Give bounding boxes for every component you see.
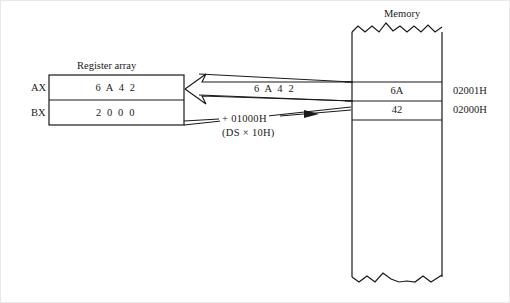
memory-cell-address-high: 02001H — [453, 85, 487, 96]
diagram-vector-layer — [1, 1, 510, 303]
register-value-bx: 2 0 0 0 — [51, 108, 181, 119]
register-value-ax: 6 A 4 2 — [51, 83, 181, 94]
memory-cell-address-low: 02000H — [453, 104, 487, 115]
memory-column — [352, 23, 442, 282]
register-label-ax: AX — [31, 83, 46, 94]
memory-title: Memory — [384, 9, 420, 20]
offset-derivation-label: (DS × 10H) — [222, 128, 275, 139]
offset-addend-label: + 01000H — [220, 114, 269, 125]
memory-addressing-diagram: Register array AX 6 A 4 2 BX 2 0 0 0 6 A… — [0, 0, 510, 303]
memory-cell-tick-marks — [345, 82, 352, 101]
memory-cell-value-low: 42 — [353, 104, 441, 115]
memory-cell-value-high: 6A — [353, 85, 441, 96]
register-array-title: Register array — [77, 61, 136, 72]
register-label-bx: BX — [31, 108, 46, 119]
transfer-value-label: 6 A 4 2 — [254, 84, 295, 95]
